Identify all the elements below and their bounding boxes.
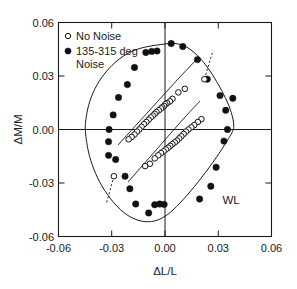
- data-point: [142, 163, 148, 169]
- data-point: [161, 201, 167, 207]
- data-point: [194, 56, 200, 62]
- hysteresis-scatter-chart: 0.06 0.03 0.00 -0.03 -0.06 -0.06 -0.03 0…: [0, 0, 297, 289]
- x-tick-label-4: 0.06: [261, 242, 282, 254]
- data-point: [122, 173, 128, 179]
- data-point: [133, 201, 139, 207]
- y-tick-label-4: 0.06: [33, 17, 54, 29]
- data-point: [112, 156, 118, 162]
- data-point: [223, 107, 229, 113]
- legend-label-noise-line2: Noise: [76, 58, 104, 70]
- figure-container: 0.06 0.03 0.00 -0.03 -0.06 -0.06 -0.03 0…: [0, 0, 297, 289]
- data-point: [180, 43, 186, 49]
- data-point: [143, 49, 149, 55]
- legend-label-noise-line1: 135-315 deg: [76, 45, 138, 57]
- data-point: [168, 40, 174, 46]
- data-point: [224, 126, 230, 132]
- wl-annotation: WL: [222, 194, 240, 206]
- y-tick-label-3: 0.03: [33, 70, 54, 82]
- data-point: [111, 173, 117, 179]
- data-point: [202, 76, 208, 82]
- data-point: [152, 156, 158, 162]
- data-point: [230, 95, 236, 101]
- data-point: [126, 137, 132, 143]
- chart-background: [0, 0, 297, 289]
- data-point: [196, 196, 202, 202]
- y-axis-title: ΔM/M: [12, 114, 24, 144]
- data-point: [105, 152, 111, 158]
- x-tick-label-0: -0.06: [46, 242, 71, 254]
- data-point: [115, 94, 121, 100]
- x-tick-label-3: 0.03: [208, 242, 229, 254]
- y-tick-label-1: -0.03: [29, 177, 54, 189]
- data-point: [221, 138, 227, 144]
- data-point: [131, 64, 137, 70]
- data-point: [213, 164, 219, 170]
- data-point: [106, 126, 112, 132]
- data-point: [217, 92, 223, 98]
- y-tick-label-0: -0.06: [29, 231, 54, 243]
- x-axis-title: ΔL/L: [153, 265, 177, 277]
- data-point: [148, 48, 154, 54]
- legend-marker-no-noise: [65, 33, 70, 38]
- data-point: [145, 210, 151, 216]
- data-point: [208, 183, 214, 189]
- legend-marker-noise: [65, 48, 71, 54]
- data-point: [124, 81, 130, 87]
- data-point: [105, 138, 111, 144]
- data-point: [176, 90, 182, 96]
- x-tick-label-2: 0.00: [154, 242, 175, 254]
- x-tick-label-1: -0.03: [99, 242, 124, 254]
- data-point: [182, 86, 188, 92]
- legend-label-no-noise: No Noise: [76, 30, 121, 42]
- y-tick-label-2: 0.00: [33, 124, 54, 136]
- data-point: [110, 112, 116, 118]
- data-point: [127, 186, 133, 192]
